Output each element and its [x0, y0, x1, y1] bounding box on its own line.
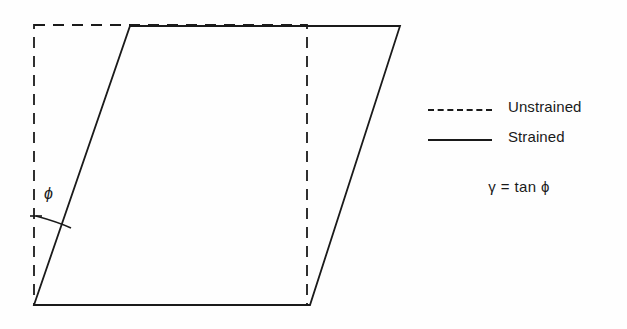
solid-line-swatch	[428, 139, 492, 141]
unstrained-rectangle	[34, 25, 307, 305]
angle-arc	[36, 216, 71, 228]
shear-strain-formula: γ = tan ϕ	[424, 178, 614, 195]
legend-label-strained: Strained	[508, 128, 565, 145]
strained-parallelogram	[34, 26, 400, 305]
legend-item-strained: Strained	[424, 126, 614, 156]
legend-item-unstrained: Unstrained	[424, 96, 614, 126]
legend-label-unstrained: Unstrained	[508, 98, 582, 115]
figure-canvas: ϕ Unstrained Strained γ = tan ϕ	[0, 0, 627, 329]
phi-angle-label: ϕ	[44, 185, 53, 203]
dashed-line-swatch	[428, 109, 492, 111]
legend: Unstrained Strained γ = tan ϕ	[424, 96, 614, 156]
shear-strain-figure	[0, 0, 627, 329]
